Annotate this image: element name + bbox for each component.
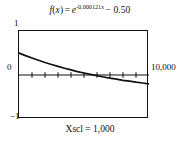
function-equation-title: f(x)=e-0.000121x− 0.50	[0, 5, 180, 15]
paren-close: )	[60, 5, 63, 15]
exponent-expression: -0.000121x	[76, 3, 104, 10]
equals-sign: =	[65, 5, 70, 15]
y-zero-label: 0	[7, 62, 12, 72]
function-curve	[19, 53, 149, 84]
exponent-coefficient: -0.000121	[76, 3, 101, 10]
y-min-label: −1	[10, 111, 20, 121]
plot-frame	[18, 30, 148, 118]
y-max-label: 1	[14, 18, 19, 28]
xscl-caption: Xscl = 1,000	[0, 124, 180, 134]
plot-canvas	[19, 31, 149, 119]
graph-figure: f(x)=e-0.000121x− 0.50 1 0 −1 10,00	[0, 0, 180, 143]
x-max-label: 10,000	[151, 62, 176, 72]
exponent-variable: x	[101, 3, 104, 10]
constant-term: − 0.50	[105, 5, 130, 15]
